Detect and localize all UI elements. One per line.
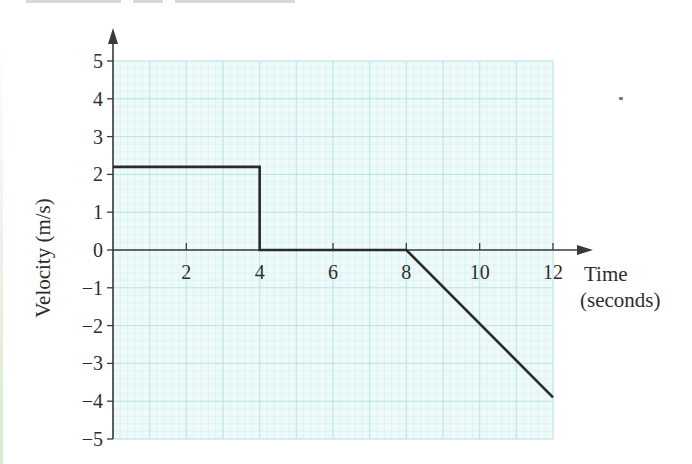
- y-tick-label: 1: [93, 201, 103, 223]
- y-tick-label: 4: [93, 88, 103, 110]
- x-axis-arrow-icon: [577, 245, 593, 255]
- y-tick-label: 0: [93, 239, 103, 261]
- x-axis-label-line2: (seconds): [580, 288, 660, 312]
- y-tick-label: −1: [82, 277, 103, 299]
- y-tick-label: −2: [82, 315, 103, 337]
- y-tick-label: −3: [82, 352, 103, 374]
- y-tick-label: 3: [93, 126, 103, 148]
- y-axis-arrow-icon: [108, 28, 118, 44]
- y-tick-label: 5: [93, 50, 103, 72]
- y-tick-label: 2: [93, 163, 103, 185]
- x-tick-label: 4: [255, 261, 265, 283]
- x-tick-label: 2: [181, 261, 191, 283]
- velocity-time-chart: 543210−1−2−3−4−524681012 Velocity (m/s) …: [0, 0, 692, 464]
- x-tick-label: 10: [470, 261, 490, 283]
- x-tick-label: 8: [401, 261, 411, 283]
- y-axis-label: Velocity (m/s): [31, 198, 55, 318]
- x-axis-label-line1: Time: [584, 262, 628, 286]
- y-tick-label: −4: [82, 390, 103, 412]
- x-tick-label: 6: [328, 261, 338, 283]
- y-tick-label: −5: [82, 428, 103, 450]
- x-tick-label: 12: [543, 261, 563, 283]
